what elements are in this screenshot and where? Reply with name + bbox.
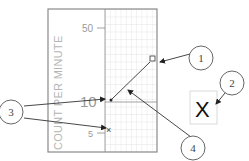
callout-2: 2 (220, 71, 244, 95)
arrow-3b (24, 118, 106, 128)
callout-3-label: 3 (8, 106, 14, 118)
dot-point (110, 99, 113, 102)
x-point: × (106, 125, 111, 135)
square-point (150, 56, 155, 61)
arrow-1 (160, 54, 190, 62)
legend-box: X (190, 91, 217, 124)
diagram-canvas: 50 10 5 COUNT PER MINUTE × X 1 2 3 4 (0, 0, 249, 161)
callout-1: 1 (189, 46, 213, 70)
legend-x-symbol: X (195, 97, 210, 122)
graph-paper (48, 9, 157, 152)
callout-1-label: 1 (198, 52, 204, 64)
callout-4-label: 4 (190, 142, 196, 154)
callout-3: 3 (0, 100, 23, 124)
callout-2-label: 2 (229, 77, 235, 89)
callout-4: 4 (181, 136, 205, 160)
tick-label-5: 5 (88, 129, 93, 139)
tick-label-50: 50 (82, 23, 94, 34)
axis-label: COUNT PER MINUTE (52, 35, 64, 150)
tick-label-10: 10 (80, 93, 97, 110)
